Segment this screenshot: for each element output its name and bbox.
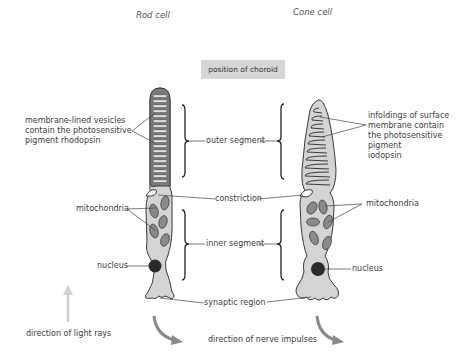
light-arrow bbox=[63, 285, 73, 322]
cone-cell bbox=[296, 100, 339, 300]
cone-infoldings-label-5: iodopsin bbox=[368, 151, 402, 161]
nerve-arrow-rod bbox=[154, 316, 183, 345]
rod-cell-title: Rod cell bbox=[136, 10, 170, 20]
cone-mitochondria-label: mitochondria bbox=[366, 199, 419, 209]
outer-segment-label: outer segment bbox=[206, 136, 265, 146]
cone-nucleus-label: nucleus bbox=[352, 264, 383, 274]
light-direction-label: direction of light rays bbox=[26, 329, 111, 339]
rod-nucleus-label: nucleus bbox=[97, 261, 128, 271]
braces bbox=[182, 104, 284, 280]
nerve-arrow-cone bbox=[317, 316, 344, 345]
cone-cell-title: Cone cell bbox=[293, 7, 332, 17]
cone-infoldings-label-1: infoldings of surface bbox=[368, 111, 449, 121]
cone-nucleus bbox=[311, 262, 325, 276]
choroid-label: position of choroid bbox=[201, 60, 285, 79]
constriction-label: constriction bbox=[215, 194, 262, 204]
cone-infoldings-label-2: membrane contain bbox=[368, 121, 444, 131]
nerve-direction-label: direction of nerve impulses bbox=[208, 335, 317, 345]
cone-infoldings-label-4: pigment bbox=[368, 141, 401, 151]
rod-cell bbox=[145, 88, 174, 299]
inner-segment-label: inner segment bbox=[206, 239, 264, 249]
rod-nucleus bbox=[149, 260, 162, 273]
synaptic-region-label: synaptic region bbox=[204, 298, 266, 308]
rod-vesicles-label-3: pigment rhodopsin bbox=[25, 136, 100, 146]
rod-mitochondria-label: mitochondria bbox=[76, 204, 129, 214]
cone-infoldings-label-3: the photosensitive bbox=[368, 131, 442, 141]
rod-vesicles-label-2: contain the photosensitive bbox=[25, 126, 132, 136]
rod-vesicles-label-1: membrane-lined vesicles bbox=[25, 116, 125, 126]
